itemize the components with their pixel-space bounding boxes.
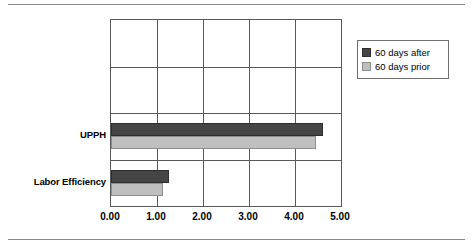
gridline-horizontal bbox=[111, 67, 341, 68]
category-label-upph: UPPH bbox=[1, 129, 106, 140]
x-tick-label: 3.00 bbox=[226, 211, 270, 222]
x-tick-label: 4.00 bbox=[272, 211, 316, 222]
plot-area bbox=[110, 19, 342, 207]
category-axis-labels: UPPHLabor Efficiency bbox=[0, 19, 106, 207]
gridline-horizontal bbox=[111, 160, 341, 161]
bar-upph-60-days-after bbox=[111, 123, 323, 136]
legend-item: 60 days after bbox=[362, 46, 444, 59]
gridline-horizontal bbox=[111, 113, 341, 114]
bar-upph-60-days-prior bbox=[111, 136, 316, 149]
top-divider-rule bbox=[8, 4, 465, 5]
bar-labor-efficiency-60-days-after bbox=[111, 170, 169, 183]
legend-item: 60 days prior bbox=[362, 60, 444, 73]
chart-legend: 60 days after60 days prior bbox=[357, 40, 449, 79]
x-axis-tick-labels: 0.001.002.003.004.005.00 bbox=[110, 211, 342, 229]
bar-labor-efficiency-60-days-prior bbox=[111, 183, 163, 196]
chart-figure: UPPHLabor Efficiency 0.001.002.003.004.0… bbox=[0, 0, 473, 250]
legend-item-label: 60 days prior bbox=[375, 61, 430, 72]
legend-item-label: 60 days after bbox=[375, 47, 430, 58]
x-tick-label: 5.00 bbox=[318, 211, 362, 222]
x-tick-label: 2.00 bbox=[180, 211, 224, 222]
legend-swatch-after bbox=[362, 48, 371, 57]
legend-swatch-prior bbox=[362, 62, 371, 71]
x-tick-label: 0.00 bbox=[88, 211, 132, 222]
x-tick-label: 1.00 bbox=[134, 211, 178, 222]
bottom-divider-rule bbox=[8, 239, 465, 240]
category-label-labor-efficiency: Labor Efficiency bbox=[1, 176, 106, 187]
